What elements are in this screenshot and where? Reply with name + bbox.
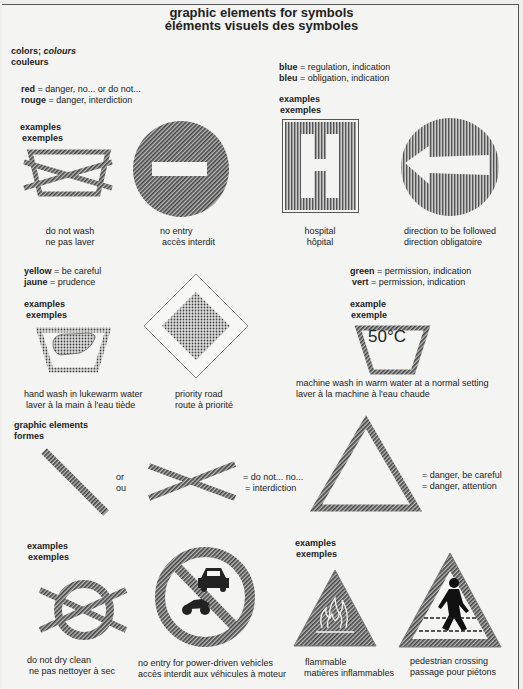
direction-label: direction to be followed bbox=[404, 226, 496, 237]
examples-label: examples bbox=[20, 122, 61, 133]
no-entry-icon bbox=[132, 120, 230, 218]
example-label: example bbox=[350, 299, 386, 310]
no-vehicles-label: no entry for power-driven vehicles bbox=[138, 658, 273, 669]
machine-wash-label-fr: laver à la machine à l'eau chaude bbox=[296, 389, 430, 400]
green-legend: green = permission, indication bbox=[350, 266, 471, 277]
cross-icon bbox=[147, 456, 239, 506]
diagonal-bar-icon bbox=[40, 447, 110, 517]
cross-meaning: = do not... no... bbox=[243, 472, 303, 483]
hand-wash-label: hand wash in lukewarm water bbox=[24, 389, 143, 400]
graphic-elements-heading-fr: formes bbox=[14, 431, 44, 442]
pedestrian-crossing-icon bbox=[397, 551, 503, 649]
hand-wash-icon bbox=[36, 328, 111, 374]
no-vehicles-icon bbox=[154, 546, 256, 648]
do-not-wash-icon bbox=[22, 150, 117, 200]
yellow-legend: yellow = be careful bbox=[24, 266, 101, 277]
or-label-fr: ou bbox=[116, 483, 126, 494]
cross-meaning-fr: = interdiction bbox=[245, 483, 296, 494]
examples-label: examples bbox=[27, 541, 68, 552]
do-not-wash-label-fr: ne pas laver bbox=[30, 237, 110, 248]
yellow-legend-fr: jaune = prudence bbox=[24, 277, 95, 288]
no-entry-label-fr: accès interdit bbox=[162, 237, 215, 248]
colors-heading: colors; colours bbox=[11, 46, 76, 57]
examples-label: examples bbox=[295, 538, 336, 549]
flammable-label-fr: matières inflammables bbox=[304, 668, 394, 679]
hospital-label: hospital bbox=[290, 226, 350, 237]
examples-label-fr: exemples bbox=[296, 549, 337, 560]
pedestrian-crossing-label: pedestrian crossing bbox=[410, 656, 488, 667]
example-label-fr: exemple bbox=[351, 310, 387, 321]
do-not-dry-clean-icon bbox=[38, 578, 128, 643]
blue-legend-fr: bleu = obligation, indication bbox=[279, 73, 389, 84]
or-label: or bbox=[116, 472, 124, 483]
colors-heading-fr: couleurs bbox=[11, 57, 49, 68]
priority-road-label: priority road bbox=[175, 389, 223, 400]
red-legend: red = danger, no... or do not... bbox=[21, 84, 141, 95]
no-vehicles-label-fr: accès interdit aux véhicules à moteur bbox=[138, 669, 286, 680]
examples-label: examples bbox=[24, 299, 65, 310]
flammable-icon bbox=[292, 568, 378, 648]
examples-label-fr: exemples bbox=[28, 552, 69, 563]
triangle-icon bbox=[313, 419, 419, 511]
direction-arrow-icon bbox=[400, 117, 500, 217]
do-not-wash-label: do not wash bbox=[30, 226, 110, 237]
triangle-meaning-fr: = danger, attention bbox=[422, 481, 497, 492]
graphic-elements-heading: graphic elements bbox=[14, 420, 88, 431]
do-not-dry-clean-label-fr: ne pas nettoyer à sec bbox=[29, 666, 115, 677]
examples-label-fr: exemples bbox=[280, 105, 321, 116]
machine-wash-label: machine wash in warm water at a normal s… bbox=[296, 378, 489, 389]
examples-label-fr: exemples bbox=[26, 310, 67, 321]
no-entry-label: no entry bbox=[160, 226, 193, 237]
triangle-meaning: = danger, be careful bbox=[422, 470, 502, 481]
direction-label-fr: direction obligatoire bbox=[404, 237, 482, 248]
examples-label: examples bbox=[279, 94, 320, 105]
red-legend-fr: rouge = danger, interdiction bbox=[21, 95, 132, 106]
hand-wash-label-fr: laver à la main à l'eau tiède bbox=[26, 400, 135, 411]
green-legend-fr: vert = permission, indication bbox=[352, 277, 465, 288]
examples-label-fr: exemples bbox=[22, 133, 63, 144]
flammable-label: flammable bbox=[305, 657, 347, 668]
hospital-label-fr: hôpital bbox=[290, 237, 350, 248]
page-subtitle: éléments visuels des symboles bbox=[0, 19, 523, 33]
wash-temperature: 50°C bbox=[368, 327, 406, 346]
priority-road-label-fr: route à priorité bbox=[175, 400, 233, 411]
priority-road-icon bbox=[143, 273, 249, 379]
do-not-dry-clean-label: do not dry clean bbox=[27, 655, 91, 666]
pedestrian-crossing-label-fr: passage pour piétons bbox=[410, 667, 496, 678]
blue-legend: blue = regulation, indication bbox=[279, 62, 390, 73]
hospital-icon bbox=[282, 119, 359, 213]
